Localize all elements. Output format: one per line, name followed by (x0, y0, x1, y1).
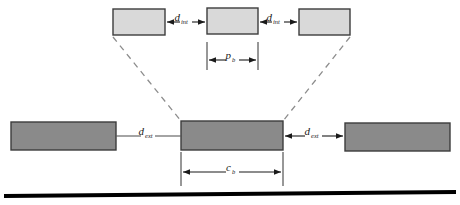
block-spacing-diagram: d int d int d ext d ext p b (0, 0, 460, 205)
actual-blocks-group (11, 121, 450, 151)
d-int-left-symbol: d (175, 11, 181, 23)
chord-subscript: b (232, 168, 236, 175)
actual-block-right (345, 123, 450, 151)
d-ext-right-subscript: ext (311, 132, 319, 139)
actual-block-left (11, 122, 116, 150)
actual-block-center (181, 121, 283, 150)
projection-lines-group (113, 37, 350, 121)
d-ext-left-symbol: d (139, 125, 145, 137)
d-int-right-dimension: d int (260, 11, 297, 25)
d-int-right-symbol: d (267, 11, 273, 23)
chord-symbol: c (226, 161, 231, 173)
pitch-dimension-group: p b (207, 42, 258, 70)
pitch-subscript: b (232, 56, 236, 63)
diagram-canvas: d int d int d ext d ext p b (0, 0, 460, 205)
d-int-left-subscript: int (181, 18, 188, 25)
projection-line-left (113, 37, 181, 121)
projected-block-center (207, 8, 258, 34)
pitch-symbol: p (225, 49, 232, 61)
d-ext-right-symbol: d (305, 125, 311, 137)
projection-line-right (283, 37, 350, 121)
d-ext-left-dimension: d ext (116, 125, 181, 139)
projected-block-right (299, 9, 350, 35)
d-int-left-dimension: d int (167, 11, 205, 25)
projected-blocks-group (113, 8, 350, 35)
projected-block-left (113, 9, 165, 35)
d-int-right-subscript: int (273, 18, 280, 25)
d-ext-left-subscript: ext (145, 132, 153, 139)
d-ext-right-dimension: d ext (285, 125, 343, 139)
chord-dimension-group: c b (181, 152, 283, 186)
ground-line (4, 192, 456, 196)
